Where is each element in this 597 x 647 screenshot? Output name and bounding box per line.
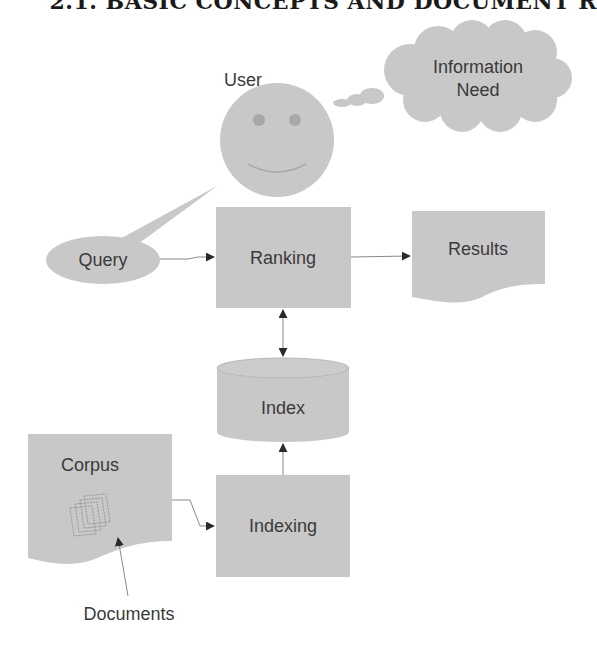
edge-query-to-ranking [160, 257, 214, 259]
edge-ranking-to-results [351, 256, 410, 257]
ranking-box: Ranking [216, 207, 351, 308]
indexing-label: Indexing [249, 516, 317, 536]
information-need-label-line2: Need [456, 80, 499, 100]
edge-corpus-to-indexing [172, 500, 214, 526]
corpus-document: Corpus [28, 434, 172, 564]
documents-label: Documents [83, 604, 174, 624]
information-need-cloud: Information Need [333, 20, 572, 132]
query-label: Query [78, 250, 127, 270]
user-label: User [224, 70, 262, 90]
information-need-label-line1: Information [433, 57, 523, 77]
indexing-box: Indexing [216, 475, 350, 577]
ranking-label: Ranking [250, 248, 316, 268]
query-speech-bubble: Query [46, 186, 217, 284]
user-smiley-icon [220, 83, 334, 197]
index-label: Index [261, 398, 305, 418]
corpus-label: Corpus [61, 455, 119, 475]
index-cylinder: Index [217, 358, 349, 442]
results-document: Results [412, 211, 545, 303]
ir-diagram: Information Need User Query Ranking Resu… [0, 0, 597, 647]
results-label: Results [448, 239, 508, 259]
